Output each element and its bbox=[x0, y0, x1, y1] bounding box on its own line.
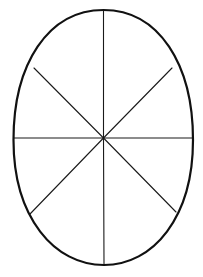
divider-vertical-bottom bbox=[104, 138, 105, 265]
diagram-canvas: Egg divided into eight segments bbox=[0, 0, 203, 277]
segment-dividers bbox=[14, 10, 193, 265]
divider-diagonal-upper-right bbox=[104, 68, 173, 138]
egg-diagram bbox=[0, 0, 203, 277]
divider-diagonal-lower-left bbox=[30, 138, 104, 214]
divider-diagonal-upper-left bbox=[34, 68, 104, 138]
divider-diagonal-lower-right bbox=[104, 138, 177, 212]
